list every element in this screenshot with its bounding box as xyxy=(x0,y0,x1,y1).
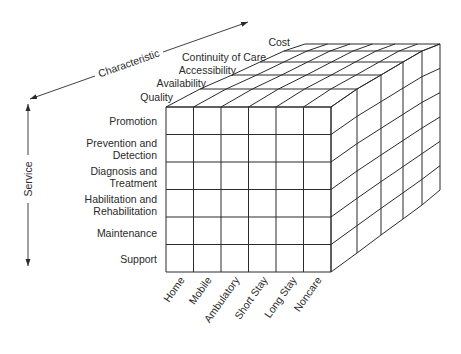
service-maintenance: Maintenance xyxy=(97,227,157,239)
cube-grid xyxy=(166,44,440,272)
service-axis: Service xyxy=(22,104,34,266)
service-promotion: Promotion xyxy=(109,115,157,127)
characteristic-availability: Availability xyxy=(157,77,207,89)
service-support: Support xyxy=(120,253,157,265)
service-axis-label: Service xyxy=(22,161,34,196)
characteristic-continuity-of-care: Continuity of Care xyxy=(182,51,266,63)
characteristic-accessibility: Accessibility xyxy=(179,64,237,76)
characteristic-quality: Quality xyxy=(140,91,173,103)
setting-mobile: Mobile xyxy=(186,274,214,306)
characteristic-cost: Cost xyxy=(268,36,290,48)
service-diagnosis-line2: Treatment xyxy=(110,177,158,189)
cube-diagram: Characteristic Service Quality Availabil… xyxy=(0,0,461,354)
service-prevention-line2: Detection xyxy=(113,149,158,161)
setting-home: Home xyxy=(161,274,187,304)
side-receding-line xyxy=(331,190,440,272)
service-habilitation-line1: Habilitation and xyxy=(85,193,158,205)
setting-labels: Home Mobile Ambulatory Short Stay Long S… xyxy=(161,274,324,325)
service-labels: Promotion Prevention and Detection Diagn… xyxy=(85,115,158,265)
service-diagnosis-line1: Diagnosis and xyxy=(90,165,157,177)
characteristic-axis-label: Characteristic xyxy=(96,47,161,80)
characteristic-arrow-right-icon xyxy=(163,22,248,52)
service-habilitation-line2: Rehabilitation xyxy=(93,205,157,217)
service-prevention-line1: Prevention and xyxy=(86,137,157,149)
characteristic-arrow-left-icon xyxy=(30,76,95,99)
